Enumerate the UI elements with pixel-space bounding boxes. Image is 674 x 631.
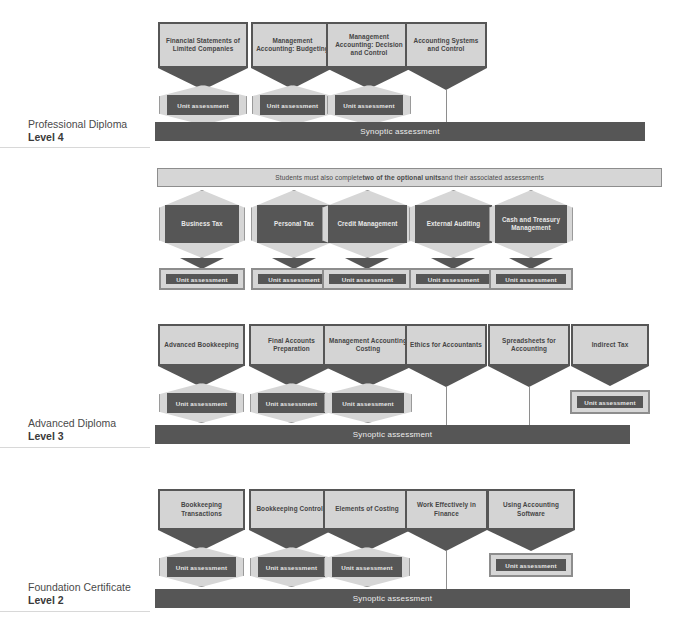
unit-assessment-hex[interactable]: Unit assessment [159, 85, 247, 125]
level-title: Advanced Diploma [28, 417, 116, 430]
unit-box[interactable]: Elements of Costing [323, 489, 411, 530]
optional-unit-label: Credit Management [328, 205, 407, 243]
optional-unit-hex[interactable]: Business Tax [159, 190, 245, 258]
unit-assessment-label: Unit assessment [167, 557, 236, 578]
unit-box[interactable]: Management Accounting Costing [323, 324, 413, 366]
unit-box[interactable]: Work Effectively in Finance [405, 489, 488, 530]
unit-box[interactable]: Bookkeeping Transactions [158, 489, 245, 530]
optional-unit-hex[interactable]: Credit Management [322, 190, 413, 258]
level-number: Level 2 [28, 594, 131, 607]
caption-rule [0, 147, 150, 148]
unit-box[interactable]: Indirect Tax [571, 324, 649, 366]
unit-box[interactable]: Spreadsheets for Accounting [488, 324, 570, 366]
level-number: Level 3 [28, 430, 116, 443]
optional-unit-hex[interactable]: External Auditing [409, 190, 498, 258]
level-title: Professional Diploma [28, 118, 127, 131]
unit-assessment-label: Unit assessment [167, 393, 236, 414]
optional-banner-suffix: and their associated assessments [441, 174, 544, 181]
level-caption-level-2: Foundation Certificate Level 2 [28, 581, 131, 607]
level-caption-level-3: Advanced Diploma Level 3 [28, 417, 116, 443]
unit-assessment-label: Unit assessment [258, 557, 325, 578]
unit-assessment-hex[interactable]: Unit assessment [327, 85, 411, 125]
unit-assessment-rect[interactable]: Unit assessment [489, 553, 573, 577]
unit-box[interactable]: Management Accounting: Decision and Cont… [326, 22, 412, 68]
unit-assessment-rect[interactable]: Unit assessment [489, 268, 573, 290]
unit-assessment-label: Unit assessment [258, 274, 330, 284]
unit-assessment-hex[interactable]: Unit assessment [250, 383, 333, 423]
unit-assessment-hex[interactable]: Unit assessment [324, 547, 410, 587]
optional-units-banner: Students must also complete two of the o… [157, 168, 662, 187]
unit-assessment-label: Unit assessment [258, 393, 325, 414]
unit-assessment-hex[interactable]: Unit assessment [250, 547, 333, 587]
unit-assessment-label: Unit assessment [416, 274, 491, 284]
unit-assessment-rect[interactable]: Unit assessment [322, 268, 413, 290]
unit-assessment-label: Unit assessment [167, 95, 239, 116]
unit-pennant-icon [405, 366, 487, 387]
unit-pennant-icon [405, 530, 487, 551]
unit-assessment-hex[interactable]: Unit assessment [159, 547, 244, 587]
unit-assessment-rect[interactable]: Unit assessment [159, 268, 245, 290]
optional-unit-label: Personal Tax [257, 205, 331, 243]
unit-assessment-label: Unit assessment [335, 95, 403, 116]
level-title: Foundation Certificate [28, 581, 131, 594]
unit-box[interactable]: Management Accounting: Budgeting [251, 22, 334, 68]
synoptic-assessment-bar[interactable]: Synoptic assessment [155, 425, 630, 444]
unit-box[interactable]: Bookkeeping Controls [249, 489, 334, 530]
level-caption-level-4: Professional Diploma Level 4 [28, 118, 127, 144]
unit-box[interactable]: Final Accounts Preparation [249, 324, 334, 366]
unit-assessment-label: Unit assessment [332, 557, 402, 578]
unit-assessment-hex[interactable]: Unit assessment [324, 383, 412, 423]
unit-assessment-rect[interactable]: Unit assessment [409, 268, 498, 290]
unit-box[interactable]: Accounting Systems and Control [405, 22, 487, 68]
unit-assessment-hex[interactable]: Unit assessment [252, 85, 333, 125]
optional-banner-bold: two of the optional units [363, 174, 442, 181]
optional-unit-label: Business Tax [165, 205, 239, 243]
optional-unit-label: External Auditing [415, 205, 492, 243]
unit-pennant-icon [571, 366, 649, 386]
caption-rule [0, 447, 150, 448]
unit-assessment-label: Unit assessment [260, 95, 325, 116]
unit-assessment-rect[interactable]: Unit assessment [570, 390, 650, 414]
unit-pennant-icon [488, 366, 570, 387]
unit-box[interactable]: Ethics for Accountants [405, 324, 487, 366]
unit-assessment-label: Unit assessment [496, 559, 566, 571]
unit-box[interactable]: Financial Statements of Limited Companie… [158, 22, 248, 68]
synoptic-assessment-bar[interactable]: Synoptic assessment [155, 589, 630, 608]
caption-rule [0, 611, 150, 612]
unit-box[interactable]: Advanced Bookkeeping [158, 324, 245, 366]
qualification-diagram: Financial Statements of Limited Companie… [0, 0, 674, 631]
unit-assessment-label: Unit assessment [329, 274, 406, 284]
unit-assessment-hex[interactable]: Unit assessment [159, 383, 244, 423]
optional-banner-prefix: Students must also complete [275, 174, 362, 181]
unit-assessment-label: Unit assessment [166, 274, 238, 284]
unit-assessment-label: Unit assessment [332, 393, 404, 414]
unit-assessment-label: Unit assessment [577, 396, 643, 408]
optional-unit-label: Cash and Treasury Management [495, 205, 567, 243]
unit-pennant-icon [487, 530, 575, 551]
synoptic-assessment-bar[interactable]: Synoptic assessment [155, 122, 645, 141]
unit-box[interactable]: Using Accounting Software [487, 489, 575, 530]
unit-assessment-label: Unit assessment [496, 274, 566, 284]
unit-pennant-icon [405, 68, 487, 90]
level-number: Level 4 [28, 131, 127, 144]
optional-unit-hex[interactable]: Cash and Treasury Management [489, 190, 573, 258]
